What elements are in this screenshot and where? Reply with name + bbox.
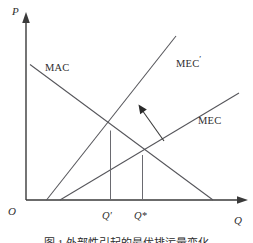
curve-label-mec: MEC xyxy=(198,116,221,127)
curve-label-mec-prime-text: MEC xyxy=(176,58,199,69)
shift-arrow-head-icon xyxy=(139,105,147,115)
y-axis-arrow-icon xyxy=(22,12,30,23)
curve-mac xyxy=(30,65,213,201)
tick-label-q-prime: Q′ xyxy=(102,211,112,222)
curve-mec-prime xyxy=(47,36,177,200)
curve-label-mac: MAC xyxy=(45,63,70,74)
prime-mark-icon: ′ xyxy=(199,54,201,64)
figure-caption: 图 1 外部性引起的最优排污量变化 xyxy=(0,234,253,243)
curve-label-mec-prime: MEC′ xyxy=(176,55,201,69)
x-axis-label: Q xyxy=(234,215,242,226)
curve-mec xyxy=(60,93,239,200)
figure-container: P Q O Q′ Q* MAC MEC′ MEC 图 1 外部性引起的最优排污量… xyxy=(0,0,253,243)
tick-label-q-star: Q* xyxy=(134,211,147,222)
origin-label: O xyxy=(8,206,16,217)
shift-arrow-shaft xyxy=(142,110,164,141)
x-axis-arrow-icon xyxy=(237,196,248,204)
y-axis-label: P xyxy=(12,6,19,17)
